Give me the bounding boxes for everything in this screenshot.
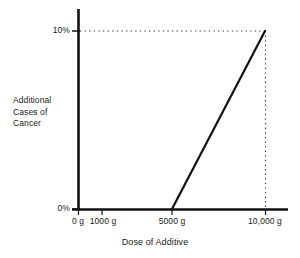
- x-tick-label-10000g: 10,000 g: [236, 216, 294, 227]
- y-tick-label-0pct: 0%: [46, 203, 70, 214]
- data-line-series-0: [172, 31, 265, 209]
- y-axis-title: Additional Cases of Cancer: [13, 95, 75, 130]
- cancer-dose-response-chart: Additional Cases of Cancer 10% 0% 0 g 10…: [0, 0, 300, 258]
- x-tick-label-1000g: 1000 g: [82, 216, 124, 227]
- y-tick-label-10pct: 10%: [44, 25, 70, 36]
- x-tick-label-5000g: 5000 g: [148, 216, 196, 227]
- x-axis-title: Dose of Additive: [105, 237, 205, 248]
